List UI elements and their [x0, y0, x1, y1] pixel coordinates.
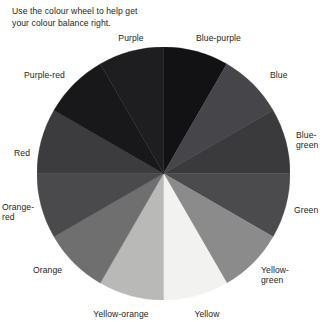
wheel-label-orange: Orange: [33, 265, 62, 275]
colour-wheel-svg: [37, 47, 290, 300]
wheel-label-purple-red: Purple-red: [24, 70, 65, 80]
wheel-label-orange-red: Orange- red: [2, 202, 34, 223]
wheel-label-yellow-green: Yellow- green: [261, 265, 289, 286]
wheel-label-blue-green: Blue- green: [296, 130, 318, 151]
wheel-label-purple: Purple: [118, 33, 143, 43]
wheel-label-yellow-orange: Yellow-orange: [93, 309, 148, 319]
colour-wheel: [37, 47, 290, 300]
figure-caption: Use the colour wheel to help get your co…: [12, 5, 144, 29]
wheel-label-red: Red: [14, 148, 30, 158]
wheel-label-yellow: Yellow: [194, 309, 219, 319]
wheel-label-blue: Blue: [270, 70, 288, 80]
wheel-label-blue-purple: Blue-purple: [196, 33, 241, 43]
wheel-label-green: Green: [294, 205, 318, 215]
colour-wheel-slices: [37, 47, 290, 300]
colour-wheel-figure: Use the colour wheel to help get your co…: [0, 0, 328, 322]
